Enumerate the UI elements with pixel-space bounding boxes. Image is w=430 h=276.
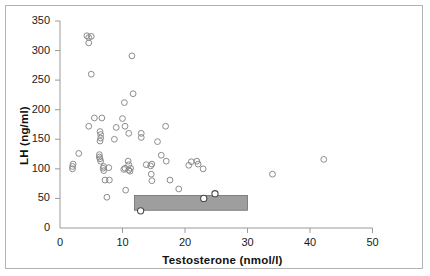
data-point <box>88 71 94 77</box>
data-point <box>130 91 136 97</box>
data-point <box>163 123 169 129</box>
data-point <box>321 156 327 162</box>
y-axis-title: LH (ng/ml) <box>18 106 30 165</box>
x-tick-label: 30 <box>228 237 268 248</box>
x-tick-label: 0 <box>40 237 80 248</box>
data-point <box>123 187 129 193</box>
data-point <box>91 115 97 121</box>
data-point <box>106 177 112 183</box>
data-point <box>129 53 135 59</box>
x-tick-label: 40 <box>290 237 330 248</box>
normal-range-box <box>134 195 247 210</box>
y-tick-label: 350 <box>12 15 50 26</box>
data-point <box>111 136 117 142</box>
figure-container: 05010015020025030035001020304050 LH (ng/… <box>0 0 430 276</box>
data-point <box>121 100 127 106</box>
data-point <box>212 191 218 197</box>
data-point <box>86 123 92 129</box>
x-tick-label: 10 <box>103 237 143 248</box>
data-point <box>167 177 173 183</box>
data-point <box>148 171 154 177</box>
y-tick-label: 50 <box>12 192 50 203</box>
x-tick-label: 20 <box>165 237 205 248</box>
data-point <box>120 116 126 122</box>
data-point <box>149 161 155 167</box>
data-point <box>201 195 207 201</box>
data-point <box>176 186 182 192</box>
x-tick-label: 50 <box>353 237 393 248</box>
x-axis-title: Testosterone (nmol/l) <box>0 254 430 266</box>
data-point <box>200 166 206 172</box>
data-point <box>163 158 169 164</box>
data-point <box>270 171 276 177</box>
data-point <box>126 130 132 136</box>
data-point <box>113 125 119 131</box>
data-point <box>76 151 82 157</box>
data-point <box>99 115 105 121</box>
data-point <box>104 194 110 200</box>
data-point <box>122 123 128 129</box>
y-tick-label: 0 <box>12 222 50 233</box>
scatter-plot-canvas <box>0 0 430 276</box>
data-point <box>149 178 155 184</box>
data-point <box>138 208 144 214</box>
data-point <box>155 139 161 145</box>
data-point <box>138 130 144 136</box>
y-tick-label: 250 <box>12 74 50 85</box>
data-point <box>158 152 164 158</box>
y-tick-label: 300 <box>12 45 50 56</box>
